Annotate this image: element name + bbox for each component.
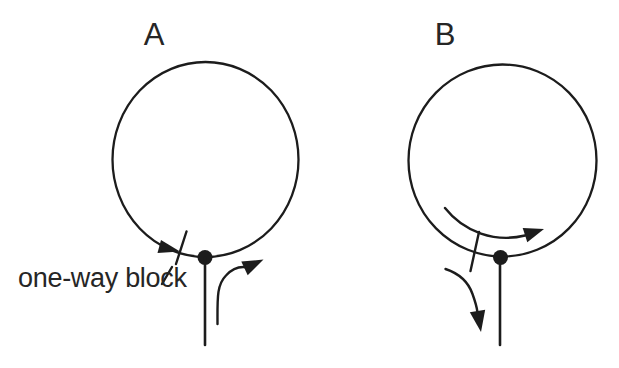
- loop-impulse-arrowhead-a: [158, 240, 181, 253]
- panel-a-label: A: [144, 17, 165, 52]
- panel-a: A one-way block: [18, 17, 299, 345]
- one-way-block-label: one-way block: [18, 263, 187, 293]
- one-way-block-tick-a: [176, 232, 187, 265]
- exit-arrow-shaft-b: [446, 269, 478, 312]
- reentry-loop-b: [409, 65, 597, 257]
- reentry-diagram-canvas: A one-way block B: [0, 0, 619, 368]
- panel-b-label: B: [435, 17, 456, 52]
- exit-arrow-arrowhead-b: [470, 310, 485, 332]
- reentry-diagram-figure: A one-way block B: [0, 0, 619, 368]
- exit-arrow-shaft-a: [217, 267, 245, 324]
- exit-arrow-arrowhead-a: [241, 260, 263, 276]
- panel-b: B: [409, 17, 597, 345]
- circulating-impulse-arc-b: [445, 208, 525, 238]
- reentry-loop-a: [113, 62, 299, 257]
- circulating-impulse-arrowhead-b: [523, 228, 544, 242]
